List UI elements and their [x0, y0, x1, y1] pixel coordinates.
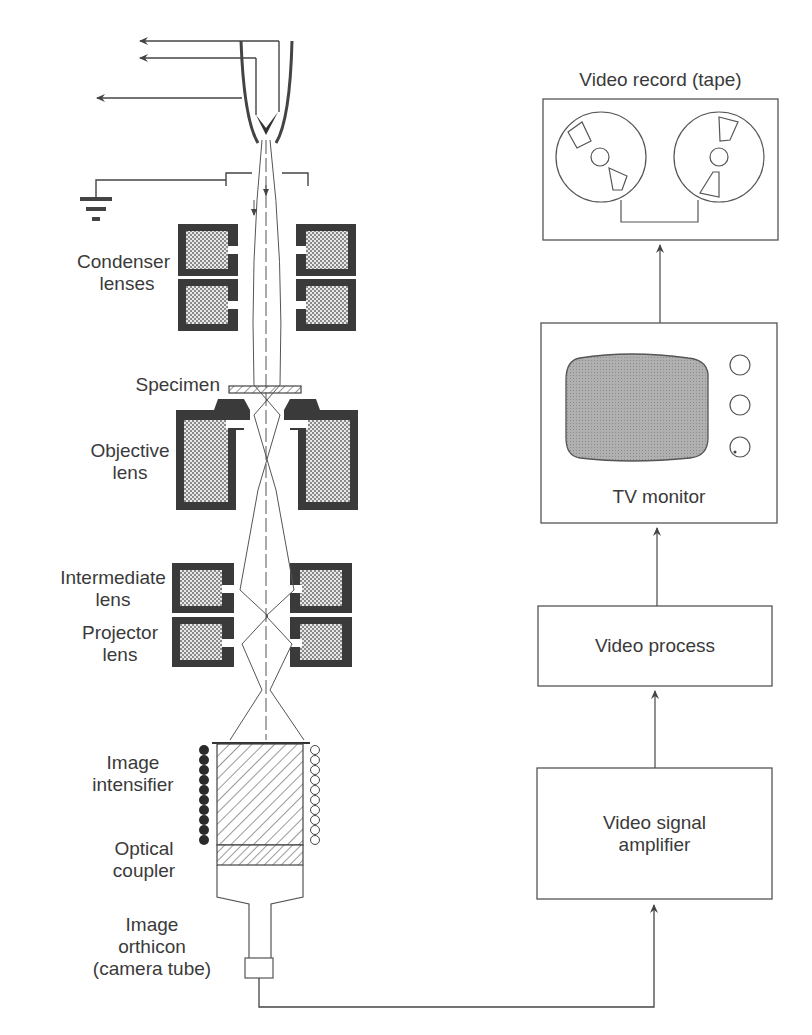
label-line: Projector [72, 622, 168, 644]
label-line: amplifier [537, 834, 772, 856]
condenser-lenses [178, 224, 356, 331]
label-line: (camera tube) [82, 958, 222, 980]
label-line: Intermediate [57, 567, 169, 589]
tv-screen-icon [566, 354, 750, 461]
objective-lens [176, 399, 358, 510]
label-specimen: Specimen [100, 374, 220, 396]
label-line: orthicon [82, 936, 222, 958]
label-tv-monitor: TV monitor [541, 486, 777, 508]
label-video-record: Video record (tape) [543, 69, 778, 91]
label-image-intensifier: Image intensifier [80, 752, 186, 796]
intermediate-projector-lenses [172, 563, 352, 667]
label-line: Video signal [537, 812, 772, 834]
label-line: coupler [100, 860, 188, 882]
label-video-signal-amplifier: Video signal amplifier [537, 812, 772, 856]
label-objective-lens: Objective lens [88, 440, 172, 484]
label-optical-coupler: Optical coupler [100, 838, 188, 882]
image-orthicon [217, 865, 303, 978]
label-line: lenses [70, 273, 170, 295]
label-line: intensifier [80, 774, 186, 796]
label-line: Image [82, 914, 222, 936]
label-projector-lens: Projector lens [72, 622, 168, 666]
image-intensifier [199, 743, 320, 865]
label-line: lens [72, 644, 168, 666]
label-line: lens [57, 589, 169, 611]
coil-right-open [311, 746, 320, 845]
coil-left-filled [199, 745, 209, 845]
specimen-slide [229, 386, 301, 393]
label-line: Objective [88, 440, 172, 462]
label-image-orthicon: Image orthicon (camera tube) [82, 914, 222, 980]
label-line: Optical [100, 838, 188, 860]
label-intermediate-lens: Intermediate lens [57, 567, 169, 611]
label-video-process: Video process [538, 635, 772, 657]
label-line: lens [88, 462, 172, 484]
label-line: Condenser [70, 251, 170, 273]
signal-cable [259, 905, 654, 1007]
label-condenser-lenses: Condenser lenses [70, 251, 170, 295]
label-line: Image [80, 752, 186, 774]
tv-knobs [730, 355, 750, 457]
tape-reels-icon [556, 112, 764, 222]
electron-gun [97, 41, 292, 143]
